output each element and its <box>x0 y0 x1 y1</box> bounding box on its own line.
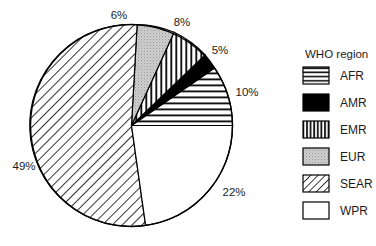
legend-swatch-sear <box>303 175 329 192</box>
legend-item-wpr[interactable]: WPR <box>303 202 368 219</box>
legend: WHO region AFR AMR EMR EUR <box>303 48 373 219</box>
chart-canvas: 6% 8% 5% 10% 22% 49% WHO region AFR AMR <box>0 0 376 246</box>
pie-slice-sear[interactable] <box>30 24 146 226</box>
legend-label-amr: AMR <box>340 96 367 110</box>
pie-slices <box>30 24 233 226</box>
legend-title: WHO region <box>305 48 368 60</box>
legend-swatch-wpr <box>303 202 329 219</box>
legend-label-eur: EUR <box>340 150 366 164</box>
legend-swatch-amr <box>303 94 329 111</box>
legend-label-afr: AFR <box>340 69 364 83</box>
data-label-afr: 10% <box>235 86 258 98</box>
legend-label-wpr: WPR <box>340 204 368 218</box>
data-label-eur: 6% <box>111 9 128 21</box>
legend-item-afr[interactable]: AFR <box>303 67 364 84</box>
legend-swatch-eur <box>303 148 329 165</box>
legend-label-sear: SEAR <box>340 177 373 191</box>
pie-chart-figure: 6% 8% 5% 10% 22% 49% WHO region AFR AMR <box>0 0 376 246</box>
legend-swatch-afr <box>303 67 329 84</box>
legend-swatch-emr <box>303 121 329 138</box>
legend-item-amr[interactable]: AMR <box>303 94 367 111</box>
legend-item-emr[interactable]: EMR <box>303 121 367 138</box>
legend-label-emr: EMR <box>340 123 367 137</box>
legend-item-eur[interactable]: EUR <box>303 148 366 165</box>
data-label-wpr: 22% <box>222 186 245 198</box>
data-label-amr: 5% <box>212 44 229 56</box>
pie-slice-wpr[interactable] <box>132 126 233 226</box>
data-label-sear: 49% <box>12 160 35 172</box>
data-label-emr: 8% <box>174 16 191 28</box>
legend-item-sear[interactable]: SEAR <box>303 175 373 192</box>
